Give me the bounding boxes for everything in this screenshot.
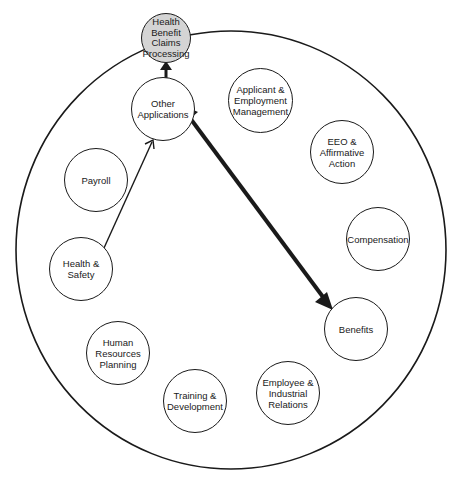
- node-label: Health & Safety: [63, 258, 99, 280]
- node-label: Payroll: [81, 175, 110, 186]
- node-label: Health Benefit Claims Processing: [143, 17, 190, 59]
- node-eeo[interactable]: EEO & Affirmative Action: [310, 120, 374, 184]
- node-hr-planning[interactable]: Human Resources Planning: [86, 321, 150, 385]
- node-other-applications[interactable]: Other Applications: [131, 77, 195, 141]
- node-label: Compensation: [347, 234, 408, 245]
- node-label: Human Resources Planning: [95, 337, 140, 370]
- node-compensation[interactable]: Compensation: [346, 207, 410, 271]
- node-label: Applicant & Employment Management: [233, 84, 288, 117]
- node-employee-industrial[interactable]: Employee & Industrial Relations: [256, 361, 320, 425]
- node-health-safety[interactable]: Health & Safety: [49, 237, 113, 301]
- node-label: Other Applications: [137, 98, 188, 120]
- node-benefits[interactable]: Benefits: [324, 297, 388, 361]
- node-label: Training & Development: [167, 390, 223, 412]
- arrow-other-benefits: [180, 104, 333, 310]
- node-payroll[interactable]: Payroll: [64, 148, 128, 212]
- node-label: EEO & Affirmative Action: [320, 136, 365, 169]
- arrow-other-to-hub: [160, 61, 172, 78]
- node-label: Benefits: [339, 324, 373, 335]
- node-training-development[interactable]: Training & Development: [163, 369, 227, 433]
- node-applicant-employment[interactable]: Applicant & Employment Management: [228, 68, 293, 133]
- node-health-benefit-claims-processing[interactable]: Health Benefit Claims Processing: [141, 13, 191, 63]
- node-label: Employee & Industrial Relations: [262, 377, 313, 410]
